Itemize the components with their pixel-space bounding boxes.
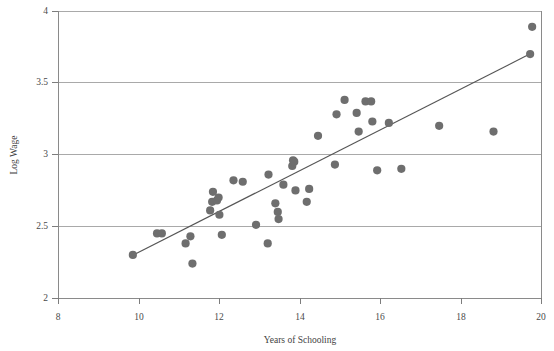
data-point xyxy=(181,239,189,247)
data-point xyxy=(239,178,247,186)
data-point xyxy=(489,127,497,135)
data-point xyxy=(271,199,279,207)
data-point xyxy=(264,170,272,178)
x-tick-label-14: 14 xyxy=(295,312,305,322)
data-point xyxy=(305,185,313,193)
x-tick-label-20: 20 xyxy=(536,312,546,322)
data-point xyxy=(528,23,536,31)
data-point xyxy=(435,122,443,130)
data-point xyxy=(186,232,194,240)
y-tick-label-2: 2 xyxy=(43,293,48,303)
x-axis-ticks xyxy=(58,298,541,304)
data-point xyxy=(368,117,376,125)
x-tick-label-8: 8 xyxy=(56,312,61,322)
data-point xyxy=(252,221,260,229)
y-tick-label-3-5: 3.5 xyxy=(36,77,48,87)
data-point xyxy=(158,229,166,237)
data-point xyxy=(215,211,223,219)
data-point xyxy=(373,166,381,174)
data-point xyxy=(353,109,361,117)
y-tick-label-4: 4 xyxy=(43,6,48,16)
data-point xyxy=(314,132,322,140)
data-point xyxy=(397,165,405,173)
data-point xyxy=(340,96,348,104)
data-point xyxy=(274,215,282,223)
data-point xyxy=(355,127,363,135)
y-tick-label-3: 3 xyxy=(43,149,48,159)
data-point xyxy=(526,50,534,58)
x-axis-tick-labels: 8 10 12 14 16 18 20 xyxy=(56,312,546,322)
data-point xyxy=(214,193,222,201)
data-point xyxy=(218,231,226,239)
x-axis-title: Years of Schooling xyxy=(264,335,337,345)
x-tick-label-10: 10 xyxy=(134,312,144,322)
data-point xyxy=(188,259,196,267)
y-tick-label-2-5: 2.5 xyxy=(36,221,48,231)
data-point xyxy=(331,160,339,168)
data-point xyxy=(274,208,282,216)
x-tick-label-16: 16 xyxy=(375,312,385,322)
y-axis-title: Log Wage xyxy=(9,136,19,175)
data-point xyxy=(303,198,311,206)
data-point xyxy=(385,119,393,127)
chart-canvas: 4 3.5 3 2.5 2 8 10 12 14 16 18 20 Log xyxy=(0,0,554,351)
y-axis-ticks xyxy=(52,11,58,298)
x-tick-label-18: 18 xyxy=(456,312,466,322)
data-point xyxy=(367,97,375,105)
x-tick-label-12: 12 xyxy=(214,312,224,322)
data-point xyxy=(264,239,272,247)
data-point xyxy=(290,158,298,166)
data-point xyxy=(291,186,299,194)
data-point xyxy=(206,206,214,214)
y-axis-tick-labels: 4 3.5 3 2.5 2 xyxy=(36,6,48,303)
scatter-plot-figure: 4 3.5 3 2.5 2 8 10 12 14 16 18 20 Log xyxy=(0,0,554,351)
scatter-points-group xyxy=(129,23,536,268)
data-point xyxy=(229,176,237,184)
data-point xyxy=(129,251,137,259)
data-point xyxy=(332,110,340,118)
data-point xyxy=(279,181,287,189)
